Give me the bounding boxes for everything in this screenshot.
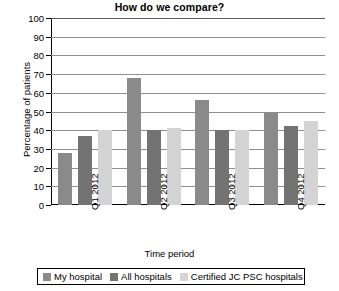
- y-axis-tick-label: 90: [14, 31, 44, 42]
- chart-title: How do we compare?: [0, 1, 339, 13]
- legend-label: My hospital: [54, 271, 102, 282]
- y-axis-tick-label: 80: [14, 50, 44, 61]
- y-axis-tick-label: 20: [14, 162, 44, 173]
- y-axis-tick-label: 0: [14, 200, 44, 211]
- bar: [235, 130, 249, 205]
- x-axis-tick-label: Q1 2012: [89, 174, 100, 210]
- y-axis-tick-label: 30: [14, 143, 44, 154]
- bar-chart: How do we compare? Percentage of patient…: [0, 0, 339, 291]
- y-axis-tick-label: 50: [14, 106, 44, 117]
- legend-swatch-icon: [110, 273, 118, 281]
- bar-group: [120, 18, 189, 205]
- legend-swatch-icon: [43, 273, 51, 281]
- chart-legend: My hospitalAll hospitalsCertified JC PSC…: [37, 268, 305, 285]
- x-axis-tick-label: Q4 2012: [295, 174, 306, 210]
- legend-label: All hospitals: [121, 271, 172, 282]
- legend-item: Certified JC PSC hospitals: [180, 271, 303, 282]
- y-axis-tick-label: 10: [14, 181, 44, 192]
- legend-swatch-icon: [180, 273, 188, 281]
- legend-label: Certified JC PSC hospitals: [191, 271, 303, 282]
- y-axis-tick-label: 60: [14, 87, 44, 98]
- legend-item: My hospital: [43, 271, 102, 282]
- x-axis-tick-label: Q3 2012: [226, 174, 237, 210]
- y-axis-tick-label: 40: [14, 125, 44, 136]
- y-axis-tick-label: 70: [14, 69, 44, 80]
- bar-group: [51, 18, 120, 205]
- legend-item: All hospitals: [110, 271, 172, 282]
- y-axis-tick-label: 100: [14, 13, 44, 24]
- bar: [195, 100, 209, 205]
- bar: [98, 130, 112, 205]
- bar: [58, 153, 72, 205]
- bar: [127, 78, 141, 205]
- x-axis-title: Time period: [0, 248, 339, 259]
- bar: [264, 113, 278, 205]
- bar-group: [188, 18, 257, 205]
- x-axis-tick-label: Q2 2012: [158, 174, 169, 210]
- bar-group: [257, 18, 326, 205]
- y-axis-tick: [46, 205, 51, 206]
